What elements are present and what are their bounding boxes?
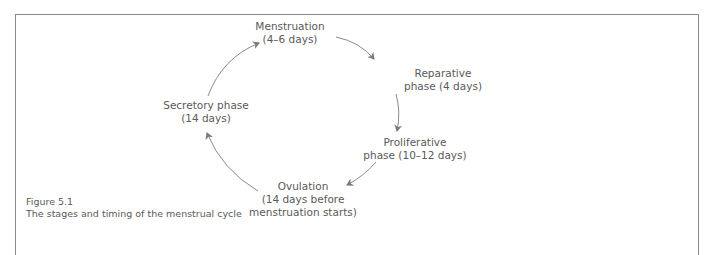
figure-title: The stages and timing of the menstrual c… bbox=[26, 208, 242, 220]
arrow-reparative-to-proliferative bbox=[396, 94, 399, 131]
stage-duration: (14 days before bbox=[248, 193, 358, 206]
stage-secretory: Secretory phase (14 days) bbox=[158, 99, 254, 125]
stage-name: Menstruation bbox=[250, 20, 330, 33]
stage-proliferative: Proliferative phase (10–12 days) bbox=[360, 136, 470, 162]
stage-name: Reparative bbox=[400, 67, 486, 80]
arrow-menstruation-to-reparative bbox=[336, 37, 374, 59]
stage-name: Ovulation bbox=[248, 180, 358, 193]
figure-number: Figure 5.1 bbox=[26, 196, 242, 208]
stage-duration-line2: menstruation starts) bbox=[248, 206, 358, 219]
figure-caption: Figure 5.1 The stages and timing of the … bbox=[26, 196, 242, 220]
stage-ovulation: Ovulation (14 days before menstruation s… bbox=[248, 180, 358, 219]
stage-name: Proliferative bbox=[360, 136, 470, 149]
stage-duration: phase (4 days) bbox=[400, 80, 486, 93]
arrow-secretory-to-menstruation bbox=[208, 43, 259, 96]
stage-menstruation: Menstruation (4–6 days) bbox=[250, 20, 330, 46]
stage-duration: (4–6 days) bbox=[250, 33, 330, 46]
stage-name: Secretory phase bbox=[158, 99, 254, 112]
stage-duration: phase (10–12 days) bbox=[360, 149, 470, 162]
stage-reparative: Reparative phase (4 days) bbox=[400, 67, 486, 93]
stage-duration: (14 days) bbox=[158, 112, 254, 125]
